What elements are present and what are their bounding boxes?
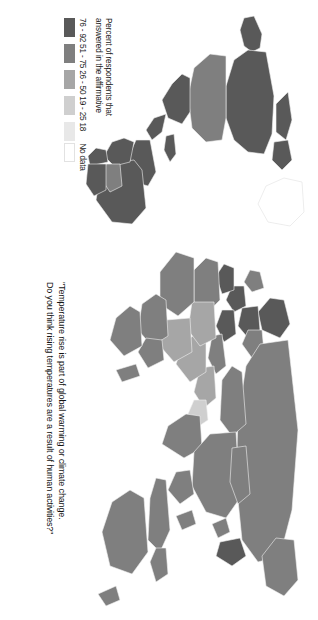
legend-label: 76 - 92 bbox=[76, 18, 87, 42]
legend-entry-18: 18 bbox=[64, 122, 87, 141]
legend-swatch bbox=[64, 96, 75, 115]
figure-root: Percent of respondents that answered in … bbox=[0, 0, 318, 620]
legend-swatch bbox=[64, 122, 75, 141]
legend-label: 51 - 75 bbox=[76, 44, 87, 68]
world-choropleth-map bbox=[86, 0, 318, 620]
legend-swatch bbox=[64, 70, 75, 89]
legend-swatch bbox=[64, 44, 75, 63]
map-svg bbox=[86, 0, 318, 620]
legend-swatch bbox=[64, 143, 75, 162]
legend-label: 19 - 25 bbox=[76, 96, 87, 120]
legend-entry-76-92: 76 - 92 bbox=[64, 18, 87, 42]
legend-label: No data bbox=[76, 143, 87, 170]
legend-entry-51-75: 51 - 75 bbox=[64, 44, 87, 68]
legend-scale: 76 - 92 51 - 75 26 - 50 19 - 25 18 No da bbox=[64, 18, 87, 173]
legend-entry-19-25: 19 - 25 bbox=[64, 96, 87, 120]
figure-caption: "Temperature rise is part of global warm… bbox=[43, 282, 68, 534]
legend-swatch bbox=[64, 18, 75, 37]
legend: Percent of respondents that answered in … bbox=[64, 18, 113, 173]
region-canada bbox=[226, 50, 274, 154]
legend-entry-26-50: 26 - 50 bbox=[64, 70, 87, 94]
legend-entry-no-data: No data bbox=[64, 143, 87, 170]
legend-label: 18 bbox=[76, 122, 87, 131]
legend-label: 26 - 50 bbox=[76, 70, 87, 94]
legend-title: Percent of respondents that answered in … bbox=[93, 18, 113, 173]
